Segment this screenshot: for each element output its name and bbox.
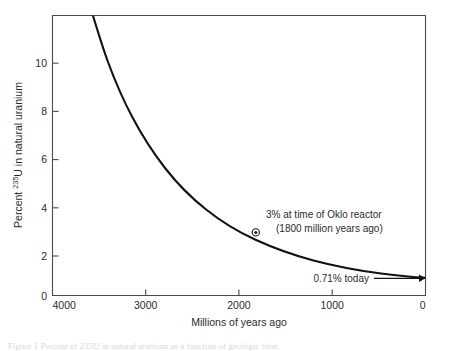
y-axis-title-suffix: U in natural uranium [12,82,24,177]
plot-frame [53,16,426,296]
figure-caption: Figure 1 Percent of 235U in natural uran… [8,341,448,351]
oklo-annotation-line1: 3% at time of Oklo reactor [266,209,382,220]
marker-dot [254,231,257,234]
x-axis-tick-labels: 4000 3000 2000 1000 0 [53,299,426,311]
today-annotation-label: 0.71% today [313,273,369,284]
x-tick-label-0: 0 [420,299,426,311]
today-arrow-head [419,275,426,282]
y-tick-label-10: 10 [35,57,47,69]
x-tick-label-2000: 2000 [227,299,251,311]
today-annotation: 0.71% today [313,273,425,284]
oklo-data-point-marker [252,229,259,236]
y-axis-tick-labels: 10 8 6 4 2 0 [35,57,47,302]
y-tick-label-8: 8 [41,105,47,117]
y-axis-title: Percent 235U in natural uranium [11,82,24,228]
x-tick-label-3000: 3000 [134,299,158,311]
y-tick-label-4: 4 [41,202,47,214]
y-axis-title-prefix: Percent [12,189,24,228]
y-axis-title-superscript: 235 [11,177,20,189]
x-tick-label-1000: 1000 [321,299,345,311]
decay-curve [93,15,426,278]
data-series-group [93,15,426,278]
y-axis-ticks [53,63,59,256]
oklo-annotation: 3% at time of Oklo reactor (1800 million… [266,209,383,234]
y-tick-label-2: 2 [41,250,47,262]
x-tick-label-4000: 4000 [53,299,77,311]
x-axis-title: Millions of years ago [191,316,287,328]
oklo-annotation-line2: (1800 million years ago) [276,223,383,234]
svg-text:Percent 235U in natural uraniu: Percent 235U in natural uranium [11,82,24,228]
y-tick-label-0: 0 [41,290,47,302]
y-tick-label-6: 6 [41,153,47,165]
x-axis-ticks [146,290,333,296]
